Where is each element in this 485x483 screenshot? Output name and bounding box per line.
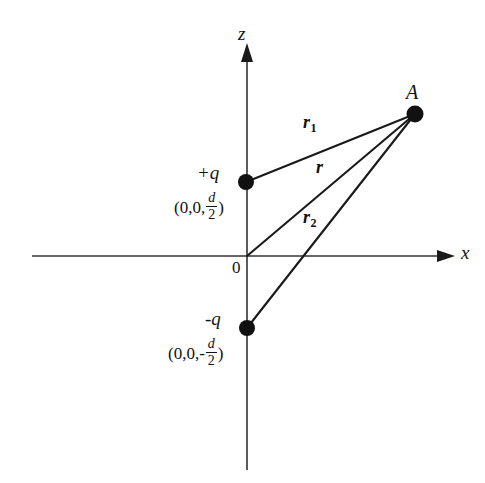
origin-label: 0: [232, 259, 241, 276]
figure-canvas: [0, 0, 485, 483]
negative-charge-label: -q: [205, 309, 221, 328]
vector-r2-label: r2: [303, 208, 317, 229]
coord-fraction: d2: [206, 337, 217, 368]
vector-r2-subscript: 2: [311, 216, 317, 230]
vector-r1-subscript: 1: [311, 121, 317, 135]
vector-r1-symbol: r: [303, 112, 310, 132]
coord-prefix: (0,0,: [174, 199, 205, 216]
vector-r1-label: r1: [303, 113, 317, 134]
vector-r2-symbol: r: [303, 207, 310, 227]
z-axis-arrowhead: [241, 43, 253, 62]
dipole-figure: z x 0 A +q (0,0,d2) -q (0,0,-d2) r1 r r2: [0, 0, 485, 483]
coord-prefix: (0,0,: [168, 345, 199, 362]
x-axis-label: x: [461, 243, 469, 262]
vector-r-label: r: [316, 158, 324, 179]
vector-r1-line: [246, 114, 415, 182]
coord-fraction: d2: [206, 191, 217, 222]
vector-r-line: [247, 114, 415, 256]
coord-numerator: d: [206, 337, 217, 353]
vector-r-symbol: r: [316, 157, 323, 177]
positive-charge-label: +q: [197, 163, 219, 182]
field-point-marker[interactable]: [407, 106, 424, 123]
z-axis-label: z: [238, 24, 245, 43]
coord-denominator: 2: [208, 353, 215, 368]
field-point-label: A: [406, 82, 418, 102]
coord-suffix: ): [218, 199, 224, 216]
coord-denominator: 2: [208, 207, 215, 222]
negative-charge-marker[interactable]: [239, 320, 255, 336]
coord-numerator: d: [206, 191, 217, 207]
positive-charge-marker[interactable]: [238, 174, 254, 190]
coord-sign: -: [199, 345, 205, 362]
positive-charge-coordinates: (0,0,d2): [174, 192, 224, 223]
vector-r2-line: [247, 114, 415, 328]
negative-charge-coordinates: (0,0,-d2): [168, 338, 224, 369]
coord-suffix: ): [218, 345, 224, 362]
x-axis-arrowhead: [437, 250, 455, 262]
